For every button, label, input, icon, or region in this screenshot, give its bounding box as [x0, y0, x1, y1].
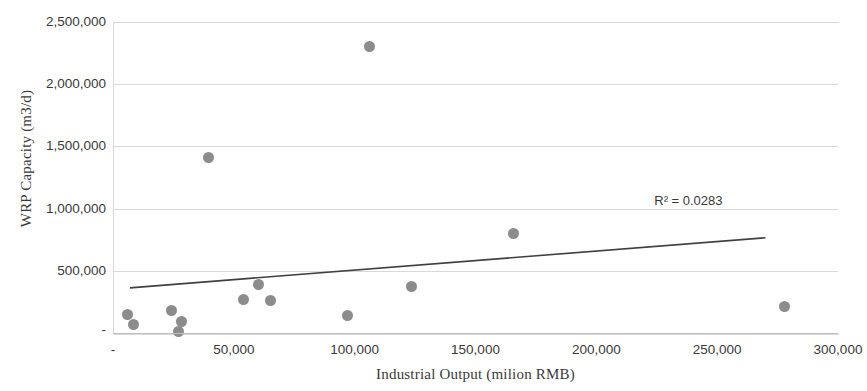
data-point — [265, 295, 276, 306]
r-squared-annotation: R² = 0.0283 — [654, 193, 722, 208]
data-point — [173, 326, 184, 337]
data-point — [166, 305, 177, 316]
data-point — [238, 294, 249, 305]
data-point — [779, 301, 790, 312]
data-point — [128, 319, 139, 330]
x-axis-line — [113, 333, 838, 334]
data-point — [364, 41, 375, 52]
